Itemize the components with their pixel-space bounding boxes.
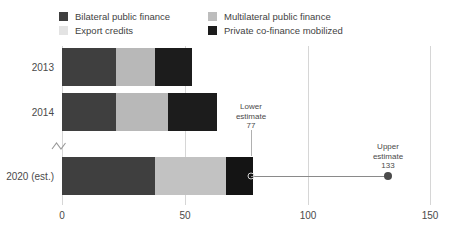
chart-legend: Bilateral public finance Export credits … — [0, 0, 449, 44]
row-label: 2013 — [32, 62, 54, 73]
legend-item-bilateral-public-finance[interactable]: Bilateral public finance — [59, 11, 170, 22]
gridline-150 — [430, 46, 431, 205]
lower-estimate-stem — [251, 130, 252, 156]
lower-estimate-marker[interactable] — [248, 173, 255, 180]
bar-segment-multilateral[interactable] — [116, 48, 155, 86]
legend-label: Private co-finance mobilized — [224, 25, 343, 36]
legend-item-multilateral-public-finance[interactable]: Multilateral public finance — [208, 11, 331, 22]
bar-segment-bilateral[interactable] — [62, 157, 155, 195]
stacked-bar[interactable] — [62, 93, 217, 131]
legend-label: Export credits — [75, 25, 133, 36]
bar-segment-bilateral[interactable] — [62, 93, 116, 131]
upper-estimate-annotation: Upper estimate 133 — [373, 142, 403, 171]
legend-label: Multilateral public finance — [224, 11, 331, 22]
legend-item-export-credits[interactable]: Export credits — [59, 25, 133, 36]
lower-estimate-value: 77 — [236, 121, 266, 131]
upper-estimate-marker[interactable] — [384, 172, 392, 180]
upper-estimate-value: 133 — [373, 161, 403, 171]
bar-segment-bilateral[interactable] — [62, 48, 116, 86]
x-axis-tick-label-150: 150 — [422, 210, 439, 221]
axis-break-icon — [51, 140, 71, 152]
stacked-bar[interactable] — [62, 157, 253, 195]
upper-estimate-line2: estimate — [373, 152, 403, 161]
legend-swatch-icon — [208, 26, 217, 35]
x-axis-tick-label-100: 100 — [300, 210, 317, 221]
legend-item-private-co-finance-mobilized[interactable]: Private co-finance mobilized — [208, 25, 343, 36]
legend-swatch-icon — [59, 12, 68, 21]
bar-segment-private[interactable] — [168, 93, 217, 131]
bar-segment-multilateral[interactable] — [116, 93, 168, 131]
x-axis-tick-label-0: 0 — [59, 210, 65, 221]
bar-segment-multilateral[interactable] — [155, 157, 226, 195]
row-label: 2020 (est.) — [6, 171, 54, 182]
bar-row-2013: 2013 — [62, 48, 430, 86]
row-label: 2014 — [32, 107, 54, 118]
lower-estimate-annotation: Lower estimate 77 — [236, 102, 266, 131]
estimate-range-connector — [251, 176, 388, 177]
bar-segment-private[interactable] — [155, 48, 192, 86]
plot-area: 0 50 100 150 2013 2014 — [0, 44, 449, 234]
lower-estimate-line1: Lower — [240, 102, 262, 111]
x-axis-tick-label-50: 50 — [179, 210, 190, 221]
legend-swatch-icon — [208, 12, 217, 21]
chart-container: Bilateral public finance Export credits … — [0, 0, 449, 234]
legend-swatch-icon — [59, 26, 68, 35]
upper-estimate-line1: Upper — [377, 142, 399, 151]
lower-estimate-line2: estimate — [236, 112, 266, 121]
stacked-bar[interactable] — [62, 48, 192, 86]
legend-label: Bilateral public finance — [75, 11, 170, 22]
